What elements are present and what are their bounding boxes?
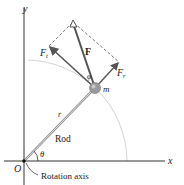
- circular-path-arc: [28, 60, 127, 161]
- rotation-axis-label: Rotation axis: [41, 171, 89, 181]
- theta-label: θ: [40, 149, 44, 159]
- origin-label: O: [14, 163, 21, 174]
- tangential-force-label: Ft: [39, 47, 48, 59]
- rod-label: Rod: [55, 134, 71, 144]
- origin-point: [22, 159, 26, 163]
- rotating-mass-force-diagram: y x O Rod r θ φ m F Ft Fr Rotation axis: [0, 0, 184, 185]
- phi-label: φ: [87, 72, 92, 81]
- force-arrowhead-icon: [70, 20, 77, 27]
- mass-ball: [90, 83, 101, 94]
- mass-label: m: [103, 84, 110, 94]
- force-label: F: [85, 46, 91, 57]
- x-axis-label: x: [167, 155, 173, 166]
- rotation-axis-pointer: [26, 163, 38, 175]
- theta-angle-arc: [34, 151, 38, 161]
- radius-label: r: [58, 110, 62, 119]
- radial-force-label: Fr: [116, 67, 126, 79]
- y-axis-label: y: [22, 3, 28, 14]
